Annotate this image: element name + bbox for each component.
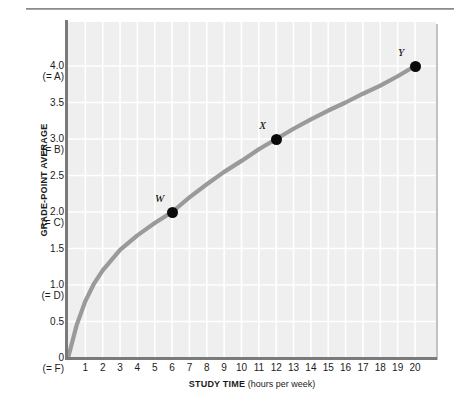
data-point-label: Y [398,46,404,58]
y-axis-line [65,20,68,360]
data-point-marker [271,134,282,145]
data-point-marker [167,207,178,218]
data-point-label: W [155,192,164,204]
data-point-label: X [259,119,266,131]
gpa-curve [68,66,415,358]
x-axis-line [65,357,437,360]
data-curve-layer [0,0,464,416]
data-point-marker [410,61,421,72]
chart-figure: 4.0(= A)3.53.0(= B)2.52.0(= C)1.51.0(= D… [0,0,464,416]
